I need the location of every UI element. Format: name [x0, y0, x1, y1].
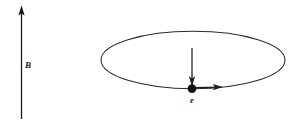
physics-figure: B e: [0, 0, 299, 123]
velocity-arrow: [196, 84, 223, 90]
magnetic-field-label: B: [24, 60, 31, 70]
centripetal-force-arrow: [189, 48, 195, 87]
magnetic-field-arrow: [18, 5, 24, 119]
electron-particle-dot: [188, 84, 197, 93]
electron-label: e: [190, 95, 194, 105]
figure-canvas: B e: [0, 0, 299, 123]
